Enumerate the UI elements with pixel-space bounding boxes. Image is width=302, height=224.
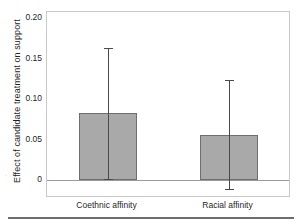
bar-chart-figure: Effect of candidate treatment on support… (0, 0, 302, 224)
zero-baseline (47, 180, 289, 181)
y-tick-label: 0.05 (25, 134, 42, 144)
error-bar-cap-lower (104, 179, 113, 180)
plot-area (46, 11, 290, 197)
error-bar-cap-upper (225, 80, 234, 81)
y-tick-label: 0.10 (25, 93, 42, 103)
x-axis-tick-labels: Coethnic affinityRacial affinity (46, 200, 290, 214)
y-axis-tick-labels: 00.050.100.150.20 (16, 0, 42, 224)
x-tick-label: Racial affinity (202, 200, 252, 210)
y-tick-label: 0 (37, 174, 42, 184)
x-tick-label: Coethnic affinity (76, 200, 136, 210)
y-tick-label: 0.20 (25, 12, 42, 22)
error-bar-line (108, 48, 109, 180)
error-bar-line (229, 80, 230, 189)
footer-divider (8, 217, 294, 219)
error-bar-cap-upper (104, 48, 113, 49)
margin-mark: · (5, 174, 8, 177)
y-tick-label: 0.15 (25, 53, 42, 63)
error-bar-cap-lower (225, 189, 234, 190)
